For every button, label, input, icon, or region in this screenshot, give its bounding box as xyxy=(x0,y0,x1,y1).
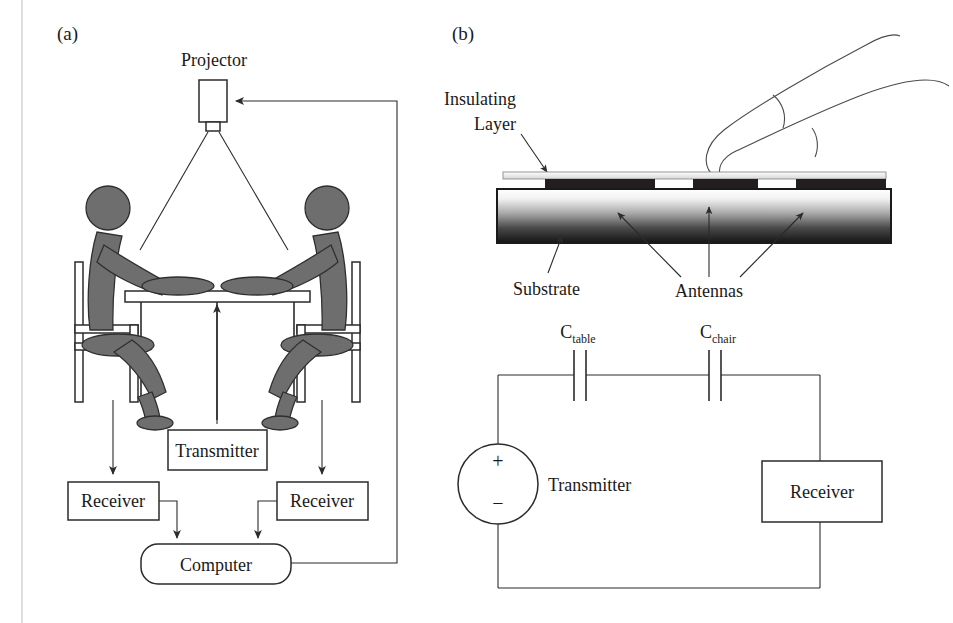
transmitter-box[interactable]: Transmitter xyxy=(168,430,267,470)
figure-canvas: (a) Projector xyxy=(0,0,953,623)
capacitor-table xyxy=(574,350,586,401)
circuit-receiver-box[interactable]: Receiver xyxy=(762,461,882,522)
antenna-3 xyxy=(796,179,886,189)
cap-table-subscript: table xyxy=(572,332,595,346)
cap-chair-symbol: C xyxy=(700,322,712,342)
equivalent-circuit: Ctable Cchair + xyxy=(458,322,882,588)
antenna-2 xyxy=(693,179,758,189)
insulating-layer-leader xyxy=(521,134,547,172)
substrate-block xyxy=(497,189,891,243)
computer-label: Computer xyxy=(180,555,252,575)
projector-icon xyxy=(199,80,227,131)
cap-chair-label: Cchair xyxy=(700,322,736,346)
cap-chair-subscript: chair xyxy=(712,332,736,346)
transmitter-box-label: Transmitter xyxy=(175,441,258,461)
capacitor-chair xyxy=(709,350,721,401)
computer-box[interactable]: Computer xyxy=(141,544,291,584)
insulating-layer xyxy=(503,172,886,179)
cap-table-symbol: C xyxy=(560,322,572,342)
antenna-1 xyxy=(545,179,655,189)
projector-label: Projector xyxy=(181,50,247,70)
receiver-right-box[interactable]: Receiver xyxy=(277,482,368,520)
receiver-left-label: Receiver xyxy=(81,491,145,511)
person-right xyxy=(221,186,353,430)
substrate-label: Substrate xyxy=(513,279,580,299)
receiver-left-box[interactable]: Receiver xyxy=(68,482,159,520)
circuit-transmitter-label: Transmitter xyxy=(548,475,631,495)
transmitter-source-symbol: + − xyxy=(458,444,538,524)
circuit-receiver-label: Receiver xyxy=(790,482,854,502)
antennas-label: Antennas xyxy=(675,281,743,301)
insulating-layer-label-line1: Insulating xyxy=(444,89,516,109)
insulating-layer-label-line2: Layer xyxy=(474,114,516,134)
receiver-right-label: Receiver xyxy=(290,491,354,511)
panel-a: (a) Projector xyxy=(57,23,397,584)
polarity-minus: − xyxy=(492,492,503,514)
panel-b-label: (b) xyxy=(452,23,474,45)
finger-illustration xyxy=(706,35,949,178)
light-ray-right xyxy=(219,132,288,250)
panel-b: (b) Insulating Layer Substrate Antennas xyxy=(444,23,949,588)
light-ray-left xyxy=(140,132,208,250)
receiver-right-to-computer-wire xyxy=(258,501,277,538)
polarity-plus: + xyxy=(492,450,503,472)
receiver-left-to-computer-wire xyxy=(159,501,177,538)
cap-table-label: Ctable xyxy=(560,322,595,346)
person-left xyxy=(82,186,214,430)
panel-a-label: (a) xyxy=(57,23,78,45)
antennas-group xyxy=(545,179,886,189)
